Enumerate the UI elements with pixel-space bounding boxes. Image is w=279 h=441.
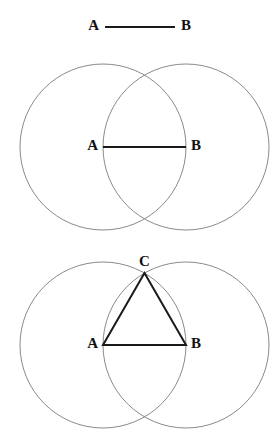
geometry-figure-canvas: A B A B A B C	[0, 0, 279, 441]
label-b-given: B	[181, 17, 191, 33]
label-a-bottom: A	[87, 335, 98, 351]
label-c-bottom: C	[139, 253, 150, 269]
label-b-bottom: B	[191, 335, 201, 351]
figure-given-segment: A B	[88, 17, 191, 33]
figure-equilateral-triangle: A B C	[20, 253, 269, 428]
figure-two-circles: A B	[20, 64, 269, 230]
label-a-given: A	[88, 17, 99, 33]
triangle-abc	[103, 273, 186, 345]
label-b-middle: B	[191, 137, 201, 153]
label-a-middle: A	[87, 137, 98, 153]
